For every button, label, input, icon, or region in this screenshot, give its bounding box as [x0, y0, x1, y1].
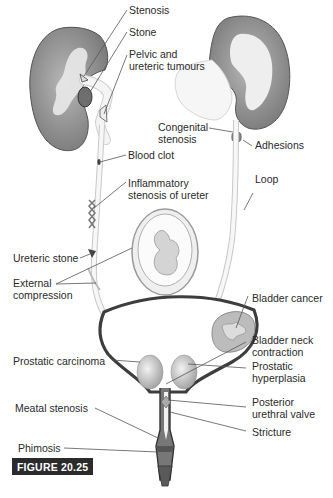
- prostatic-hyperplasia-marker: [171, 355, 197, 389]
- right-ureter: [214, 120, 236, 310]
- label-external-compression: External compression: [13, 277, 73, 301]
- label-pelvic-and-ureteric-tumours: Pelvic and ureteric tumours: [129, 48, 205, 72]
- right-kidney: [175, 16, 290, 129]
- label-bladder-neck-contraction: Bladder neck contraction: [252, 334, 313, 358]
- label-blood-clot: Blood clot: [128, 149, 174, 161]
- label-meatal-stenosis: Meatal stenosis: [15, 402, 88, 414]
- uterus: [132, 209, 198, 295]
- figure-caption: FIGURE 20.25: [12, 458, 93, 475]
- label-stricture: Stricture: [252, 426, 291, 438]
- label-posterior-urethral-valve: Posterior urethral valve: [252, 396, 315, 420]
- label-congenital-stenosis: Congenital stenosis: [158, 121, 208, 145]
- label-stone: Stone: [129, 26, 156, 38]
- label-prostatic-hyperplasia: Prostatic hyperplasia: [252, 360, 306, 384]
- urinary-obstruction-diagram: [0, 0, 333, 498]
- stone-marker: [78, 87, 92, 107]
- label-stenosis: Stenosis: [129, 4, 169, 16]
- label-prostatic-carcinoma: Prostatic carcinoma: [13, 355, 105, 367]
- meatal-stenosis-marker: [156, 446, 174, 452]
- label-adhesions: Adhesions: [255, 139, 304, 151]
- label-phimosis: Phimosis: [18, 442, 61, 454]
- prostatic-carcinoma-marker: [137, 355, 163, 389]
- label-inflammatory-stenosis: Inflammatory stenosis of ureter: [128, 177, 209, 201]
- label-bladder-cancer: Bladder cancer: [252, 292, 323, 304]
- phimosis-marker: [158, 466, 172, 486]
- label-ureteric-stone: Ureteric stone: [13, 252, 78, 264]
- left-kidney: [30, 27, 108, 150]
- label-loop: Loop: [255, 173, 278, 185]
